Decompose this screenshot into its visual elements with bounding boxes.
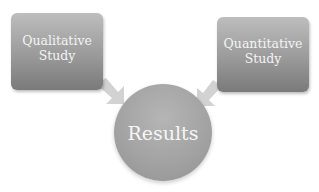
quantitative-study-node: Quantitative Study (217, 17, 309, 92)
qualitative-label-line1: Qualitative (22, 33, 92, 48)
qualitative-label-line2: Study (39, 48, 76, 63)
quantitative-label-line1: Quantitative (224, 36, 303, 51)
results-node: Results (114, 84, 212, 181)
results-label: Results (128, 122, 199, 144)
quantitative-study-label: Quantitative Study (224, 36, 303, 74)
qualitative-study-label: Qualitative Study (22, 33, 92, 71)
qualitative-study-node: Qualitative Study (11, 13, 103, 90)
diagram-canvas: Qualitative Study Quantitative Study Res… (0, 0, 319, 192)
quantitative-label-line2: Study (245, 51, 282, 66)
